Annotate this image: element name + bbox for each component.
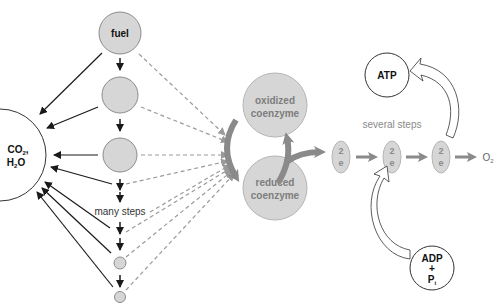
co2-label: CO	[7, 144, 22, 155]
intermediate-node-1	[102, 77, 138, 113]
svg-text:reduced: reduced	[256, 177, 295, 188]
several-steps-label: several steps	[363, 119, 422, 130]
adp-input-arrow	[371, 166, 410, 259]
fuel-node: fuel	[99, 12, 141, 54]
intermediate-node-3	[114, 257, 126, 269]
oxidized-coenzyme-node: oxidized coenzyme	[243, 73, 307, 137]
reduction-arrows	[126, 54, 234, 290]
intermediate-node-2	[103, 138, 137, 172]
svg-text:coenzyme: coenzyme	[251, 108, 300, 119]
svg-text:oxidized: oxidized	[255, 95, 295, 106]
plus-label: +	[429, 263, 435, 274]
svg-text:CO2,: CO2,	[7, 144, 28, 156]
atp-node: ATP	[365, 53, 409, 97]
svg-text:e: e	[389, 158, 394, 168]
metabolism-diagram: CO2, H2O fuel	[0, 0, 501, 306]
co2-h2o-node: CO2, H2O	[0, 109, 46, 201]
oxygen-label: O2	[482, 152, 494, 164]
oxidation-arrows	[37, 53, 113, 287]
svg-text:e: e	[338, 158, 343, 168]
electron-carrier-1: 2 e	[332, 141, 350, 173]
reduction-cycle-arrow	[227, 120, 236, 177]
electron-carrier-3: 2 e	[432, 141, 450, 173]
h2o-label: H	[7, 157, 14, 168]
many-steps-label: many steps	[94, 206, 145, 217]
svg-text:2: 2	[338, 146, 343, 156]
svg-text:2: 2	[438, 146, 443, 156]
intermediate-node-4	[115, 292, 126, 303]
svg-text:e: e	[438, 158, 443, 168]
svg-text:2: 2	[389, 146, 394, 156]
svg-text:coenzyme: coenzyme	[251, 190, 300, 201]
fuel-label: fuel	[111, 28, 129, 39]
reduced-coenzyme-node: reduced coenzyme	[243, 156, 307, 220]
atp-label: ATP	[377, 70, 397, 81]
adp-pi-node: ADP + Pi	[410, 246, 454, 290]
